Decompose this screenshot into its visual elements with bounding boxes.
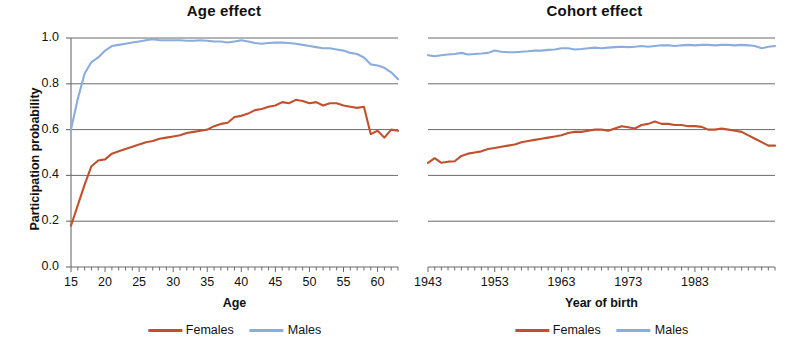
x-axis-title: Age — [223, 296, 247, 310]
data-series-males — [428, 45, 775, 56]
x-tick-label-7: 50 — [302, 275, 316, 289]
y-tick-label-0: 0.0 — [25, 259, 59, 273]
legend-line-swatch-icon-males — [250, 329, 284, 332]
y-tick-label-2: 0.4 — [25, 167, 59, 181]
legend-entry-females[interactable]: Females — [148, 323, 234, 337]
legend-label-females: Females — [186, 323, 234, 337]
x-axis-title: Year of birth — [565, 296, 638, 310]
x-tick-label-2: 25 — [132, 275, 146, 289]
data-series-females — [428, 122, 775, 163]
y-tick-label-3: 0.6 — [25, 122, 59, 136]
legend-label-females: Females — [553, 323, 601, 337]
x-tick-label-5: 40 — [234, 275, 248, 289]
x-tick-label-0: 15 — [64, 275, 78, 289]
plot-area-age-effect — [0, 0, 410, 356]
legend: FemalesMales — [148, 323, 321, 337]
x-tick-label-8: 55 — [337, 275, 351, 289]
x-tick-label-4: 35 — [200, 275, 214, 289]
x-tick-label-0: 1943 — [414, 275, 442, 289]
legend-label-males: Males — [288, 323, 321, 337]
x-tick-label-3: 1973 — [614, 275, 642, 289]
x-tick-label-2: 1963 — [548, 275, 576, 289]
y-tick-label-4: 0.8 — [25, 76, 59, 90]
legend-label-males: Males — [655, 323, 688, 337]
legend-line-swatch-icon-males — [617, 329, 651, 332]
legend-entry-males[interactable]: Males — [617, 323, 688, 337]
legend-entry-females[interactable]: Females — [515, 323, 601, 337]
y-tick-label-5: 1.0 — [25, 30, 59, 44]
x-tick-label-1: 20 — [98, 275, 112, 289]
y-tick-label-1: 0.2 — [25, 213, 59, 227]
legend: FemalesMales — [515, 323, 688, 337]
x-tick-label-3: 30 — [166, 275, 180, 289]
legend-line-swatch-icon-females — [515, 329, 549, 332]
chart-panel-age-effect: Age effect Participation probability 0.0… — [0, 0, 410, 356]
x-tick-label-6: 45 — [268, 275, 282, 289]
legend-entry-males[interactable]: Males — [250, 323, 321, 337]
x-tick-label-9: 60 — [371, 275, 385, 289]
x-tick-label-4: 1983 — [681, 275, 709, 289]
chart-panel-cohort-effect: Cohort effect 19431953196319731983Year o… — [410, 0, 787, 356]
figure-root: Age effect Participation probability 0.0… — [0, 0, 787, 356]
data-series-females — [71, 100, 398, 226]
x-tick-label-1: 1953 — [481, 275, 509, 289]
legend-line-swatch-icon-females — [148, 329, 182, 332]
